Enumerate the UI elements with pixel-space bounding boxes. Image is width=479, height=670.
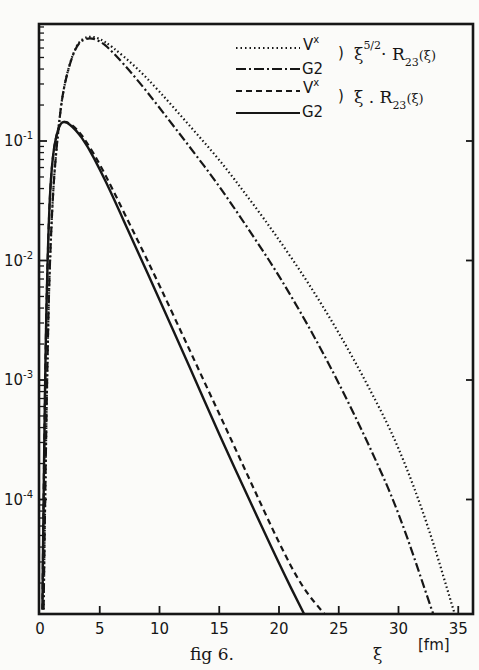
legend-expr-1: ξ5/2· R23(ξ) <box>354 39 436 69</box>
curve-dashed <box>42 122 324 614</box>
curve-dotted <box>44 37 455 614</box>
x-tick-label: 10 <box>150 620 169 638</box>
curve-dashdot <box>44 38 434 614</box>
curve-solid <box>42 122 304 614</box>
y-tick-label: 10-1 <box>4 130 33 150</box>
legend-label-vx-1: Vx <box>303 34 319 54</box>
legend-brace-1: ) <box>338 44 344 62</box>
legend-brace-2: ) <box>338 87 344 105</box>
x-tick-label: 15 <box>210 620 229 638</box>
x-tick-label: 20 <box>269 620 288 638</box>
legend-label-g2-1: G2 <box>302 60 323 78</box>
x-tick-label: 30 <box>389 620 408 638</box>
legend-label-g2-2: G2 <box>302 103 323 121</box>
legend: Vx G2 ) ξ5/2· R23(ξ) Vx G2 ) ξ . R23(ξ) <box>236 34 436 121</box>
log-plot: 10-110-210-310-4 05101520253035 Vx G2 ) … <box>0 0 479 670</box>
figure-caption: fig 6. <box>190 644 234 664</box>
legend-expr-2: ξ . R23(ξ) <box>354 87 424 112</box>
y-tick-label: 10-4 <box>4 489 33 509</box>
legend-label-vx-2: Vx <box>303 77 319 97</box>
x-tick-label: 35 <box>449 620 468 638</box>
x-axis-tick-labels: 05101520253035 <box>35 620 468 638</box>
y-tick-label: 10-3 <box>4 369 33 389</box>
curves <box>42 37 454 614</box>
y-tick-label: 10-2 <box>4 250 33 270</box>
x-tick-label: 5 <box>95 620 105 638</box>
x-axis-symbol: ξ <box>373 644 382 664</box>
x-tick-label: 25 <box>329 620 348 638</box>
x-axis-unit: [fm] <box>418 636 450 654</box>
x-tick-label: 0 <box>35 620 45 638</box>
y-axis-tick-labels: 10-110-210-310-4 <box>4 130 33 509</box>
